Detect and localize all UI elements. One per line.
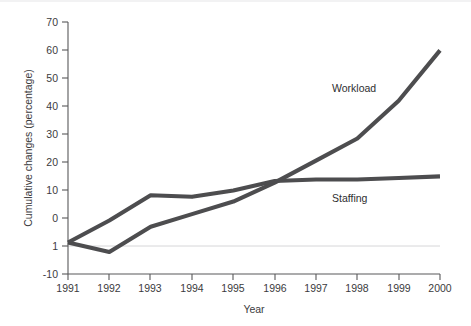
- y-tick-label: 0: [52, 212, 58, 224]
- x-tick-label: 1995: [221, 282, 245, 294]
- x-tick-label: 1999: [387, 282, 411, 294]
- line-chart-canvas: 70 60 50 40 30 20 10 0 1 -10 1991: [0, 0, 471, 326]
- y-tick-label: 1: [52, 240, 58, 252]
- y-tick-label: -10: [43, 268, 58, 280]
- y-tick-label: 40: [46, 100, 58, 112]
- x-tick-label: 1994: [180, 282, 204, 294]
- x-tick-label: 2000: [428, 282, 452, 294]
- series-label-workload: Workload: [332, 82, 376, 94]
- y-axis-ticks: [62, 22, 68, 274]
- y-tick-label: 60: [46, 44, 58, 56]
- chart-figure: 70 60 50 40 30 20 10 0 1 -10 1991: [0, 0, 471, 326]
- x-axis-tick-labels: 1991 1992 1993 1994 1995 1996 1997 1998 …: [56, 282, 452, 294]
- series-line-staffing: [68, 176, 440, 242]
- x-tick-label: 1996: [263, 282, 287, 294]
- y-axis-tick-labels: 70 60 50 40 30 20 10 0 1 -10: [43, 16, 58, 280]
- series-label-staffing: Staffing: [332, 192, 368, 204]
- y-tick-label: 20: [46, 156, 58, 168]
- y-axis-title: Cumulative changes (percentage): [22, 69, 34, 227]
- x-tick-label: 1998: [345, 282, 369, 294]
- x-axis-title: Year: [243, 303, 265, 315]
- x-axis-ticks: [68, 274, 440, 280]
- y-tick-label: 30: [46, 128, 58, 140]
- x-tick-label: 1997: [304, 282, 328, 294]
- y-tick-label: 50: [46, 72, 58, 84]
- series-line-workload: [68, 50, 440, 252]
- x-tick-label: 1992: [97, 282, 121, 294]
- x-tick-label: 1993: [138, 282, 162, 294]
- y-tick-label: 70: [46, 16, 58, 28]
- x-tick-label: 1991: [56, 282, 80, 294]
- y-tick-label: 10: [46, 184, 58, 196]
